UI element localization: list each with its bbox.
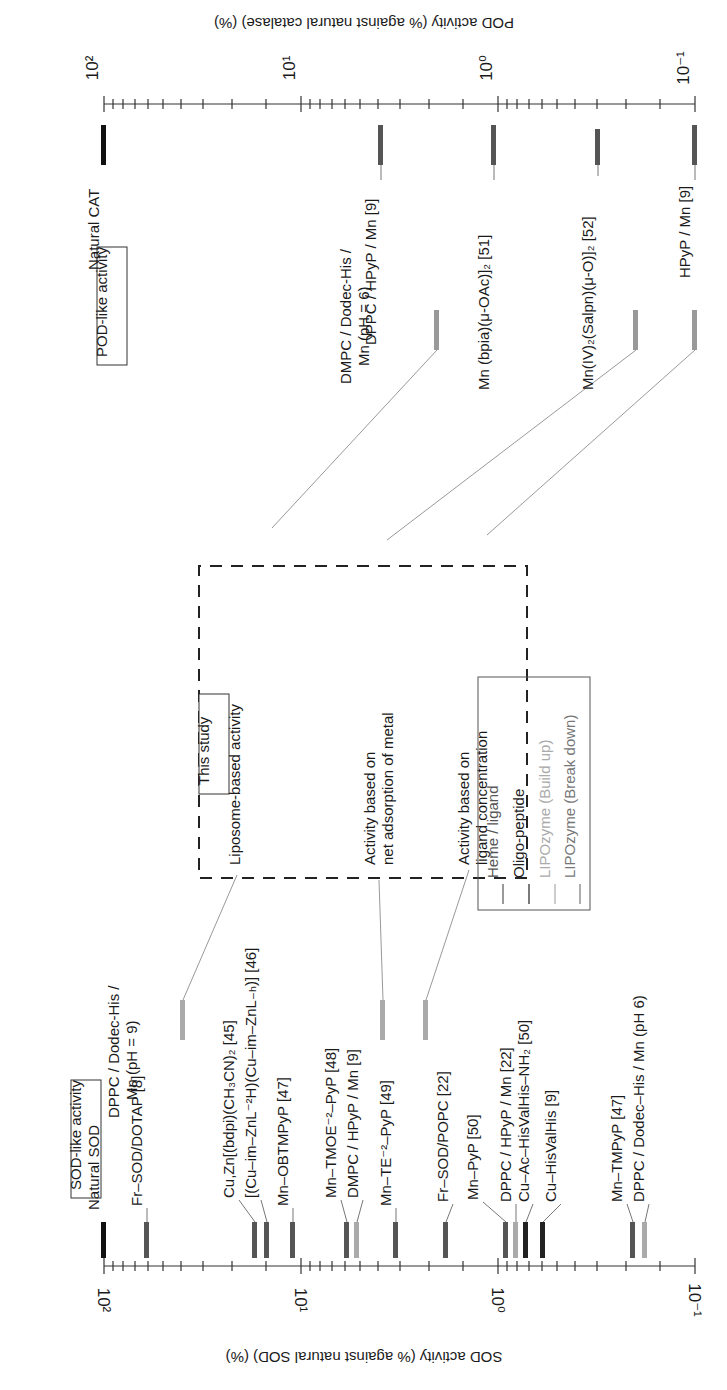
sod-axis: [104, 1258, 695, 1274]
bar-natural-cat: [101, 125, 106, 165]
this-study-label: This study: [195, 716, 212, 785]
lipozyme-pod-bars: [434, 310, 697, 350]
sod-bars: [101, 1222, 647, 1258]
label-dppc-hpyp-mn-9: DPPC / HPyP / Mn [9]: [362, 199, 379, 345]
label-dmpc-dodec-his-ph6-line1: DMPC / Dodec-His /: [337, 248, 354, 384]
lipozyme-sod-label: DPPC / Dodec-His / Mn (pH = 9): [105, 985, 140, 1118]
bar-ligand-concentration-pod: [692, 310, 697, 350]
label-hpyp-mn: HPyP / Mn [9]: [676, 186, 693, 278]
legend-lipozyme-build-up: LIPOzyme (Build up): [536, 740, 553, 878]
sod-tick-labels: 10² 10¹ 10⁰ 10⁻¹: [94, 1283, 704, 1317]
net-adsorption-label-line2: net adsorption of metal: [379, 712, 396, 865]
liposome-based-activity-label: Liposome-based activity: [226, 704, 243, 865]
label-mn-pyp: Mn–PyP [50]: [464, 1114, 481, 1200]
bar-net-adsorption-sod: [380, 1000, 385, 1040]
pod-labels: Natural CAT DPPC / HPyP / Mn [9] Mn (bpi…: [85, 186, 693, 390]
bar-ligand-concentration-sod: [423, 1000, 428, 1040]
label-dppc-dodec-his-ph6: DPPC / Dodec–His / Mn (pH 6): [630, 995, 647, 1202]
bar-dmpc-hpyp-mn: [354, 1222, 359, 1258]
bar-fr-sod-dotap: [144, 1222, 149, 1258]
sod-tick-0.1: 10⁻¹: [685, 1283, 704, 1317]
sod-section-title-text: SOD-like activity: [67, 1079, 84, 1190]
sod-axis-title: SOD activity (% against natural SOD) (%): [226, 1349, 503, 1366]
bar-pod-mn-bpia: [491, 125, 496, 165]
activity-comparison-figure: SOD activity (% against natural SOD) (%)…: [0, 0, 727, 1390]
label-mn-te: Mn–TE⁻²–PyP [49]: [377, 1080, 394, 1206]
bar-mn-te: [393, 1222, 398, 1258]
bar-mn-pyp: [503, 1222, 508, 1258]
bar-cu-hisvalhis: [540, 1222, 545, 1258]
pod-tick-0.1: 10⁻¹: [674, 51, 693, 85]
ligand-concentration-label-line1: Activity based on: [455, 752, 472, 865]
label-dmpc-hpyp-mn: DMPC / HPyP / Mn [9]: [344, 1049, 361, 1198]
label-cu-ac-hisvalhis: Cu–Ac–HisValHis–NH₂ [50]: [515, 1020, 532, 1202]
label-dppc-hpyp-mn-22: DPPC / HPyP / Mn [22]: [497, 1047, 514, 1202]
label-mn-iv-salpn: Mn(IV)₂(Salpn)(μ-O)]₂ [52]: [579, 216, 596, 390]
pod-tick-10: 10¹: [280, 55, 299, 80]
label-cu-zn-bdpi: Cu,Zn[(bdpi)(CH₃CN)₂ [45]: [220, 1020, 237, 1198]
bar-net-adsorption-pod: [633, 310, 638, 350]
bar-fr-sod-popc: [443, 1222, 448, 1258]
label-mn-tmpyp: Mn–TMPyP [47]: [608, 1095, 625, 1202]
label-natural-cat: Natural CAT: [85, 189, 102, 270]
bar-dppc-dodec-his-ph9: [180, 1000, 185, 1040]
bar-pod-dppc-hpyp-mn: [378, 125, 383, 165]
bar-pod-hpyp-mn: [692, 125, 697, 165]
pod-leaders: [381, 165, 695, 180]
bar-natural-sod: [101, 1222, 106, 1258]
lipozyme-sod-bars: [180, 1000, 428, 1040]
bar-mn-tmoe: [344, 1222, 349, 1258]
legend: Heme / ligand Oligo-peptide LIPOzyme (Bu…: [478, 677, 590, 910]
pod-tick-labels: 10² 10¹ 10⁰ 10⁻¹: [83, 51, 693, 85]
label-mn-obtmpyp: Mn–OBTMPyP [47]: [274, 1077, 291, 1206]
bar-pod-mn-iv-salpn: [595, 129, 600, 165]
label-cu-im-znl: [(Cu–im–ZnL⁻²H)(Cu–im–ZnL₋ₕ)] [46]: [242, 948, 259, 1198]
pod-axis-title: POD activity (% against natural catalase…: [214, 15, 514, 32]
pod-bars: [101, 125, 697, 165]
bar-dmpc-dodec-his-ph6: [434, 310, 439, 350]
label-mn-bpia: Mn (bpia)(μ-OAc)]₂ [51]: [475, 235, 492, 390]
bar-mn-obtmpyp: [290, 1222, 295, 1258]
legend-lipozyme-break-down: LIPOzyme (Break down): [561, 715, 578, 878]
sod-leaders: [147, 1200, 649, 1222]
label-fr-sod-popc: Fr–SOD/POPC [22]: [434, 1071, 451, 1202]
legend-heme-ligand: Heme / ligand: [484, 785, 501, 878]
net-adsorption-label-line1: Activity based on: [361, 752, 378, 865]
sod-tick-100: 10²: [94, 1288, 113, 1313]
bar-cu-ac-hisvalhis: [523, 1222, 528, 1258]
bar-dppc-dodec-his-ph6: [642, 1222, 647, 1258]
sod-tick-1: 10⁰: [488, 1287, 507, 1313]
label-natural-sod: Natural SOD: [85, 1125, 102, 1210]
bar-mn-tmpyp: [630, 1222, 635, 1258]
bar-cu-zn-bdpi: [252, 1222, 257, 1258]
label-dppc-dodec-his-ph9-line2: Mn (pH = 9): [123, 1020, 140, 1100]
sod-labels: Natural SOD Fr–SOD/DOTAP [8] Cu,Zn[(bdpi…: [85, 948, 647, 1210]
this-study-region: This study Liposome-based activity Activ…: [195, 566, 527, 878]
label-mn-tmoe: Mn–TMOE⁻²–PyP [48]: [322, 1048, 339, 1198]
legend-oligo-peptide: Oligo-peptide: [510, 789, 527, 878]
label-cu-hisvalhis: Cu–HisValHis [9]: [542, 1090, 559, 1202]
pod-tick-100: 10²: [83, 55, 102, 80]
lipozyme-sod-leaders: [183, 870, 469, 1000]
label-dppc-dodec-his-ph9-line1: DPPC / Dodec-His /: [105, 985, 122, 1118]
pod-axis: [104, 96, 695, 112]
bar-cu-im-znl: [264, 1222, 269, 1258]
pod-tick-1: 10⁰: [477, 55, 496, 81]
bar-dppc-hpyp-mn-22: [513, 1222, 518, 1258]
sod-tick-10: 10¹: [291, 1288, 310, 1313]
